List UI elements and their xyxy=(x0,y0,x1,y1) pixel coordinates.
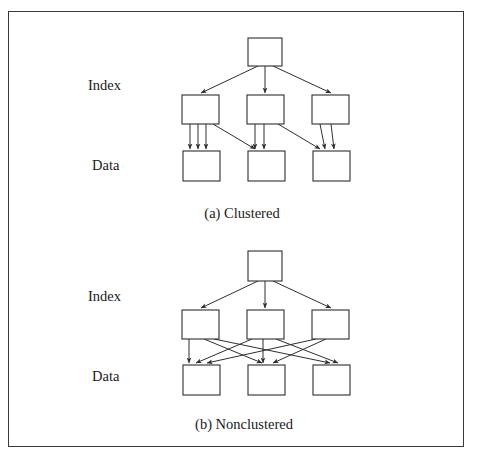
edge-index-to-data-6 xyxy=(276,339,338,363)
index-node-2 xyxy=(247,310,284,339)
edge-root-to-index-3 xyxy=(273,66,331,93)
edge-index-to-data-9 xyxy=(331,124,334,149)
panel-caption-clustered: (a) Clustered xyxy=(204,205,280,222)
data-node-3 xyxy=(313,151,350,181)
index-structure-diagram: IndexData(a) ClusteredIndexData(b) Noncl… xyxy=(0,0,477,458)
edge-root-to-index-3 xyxy=(273,281,331,308)
row-label-index: Index xyxy=(88,288,122,304)
root-index-node xyxy=(248,38,282,66)
data-node-3 xyxy=(313,365,350,395)
edge-index-to-data-3 xyxy=(214,339,330,363)
data-node-2 xyxy=(248,365,285,395)
index-node-1 xyxy=(182,95,219,124)
index-node-2 xyxy=(247,95,284,124)
edge-index-to-data-7 xyxy=(278,124,320,149)
data-node-1 xyxy=(183,365,220,395)
index-node-3 xyxy=(312,95,349,124)
data-node-1 xyxy=(183,151,220,181)
figure-root: IndexData(a) ClusteredIndexData(b) Noncl… xyxy=(0,0,477,458)
edge-index-to-data-8 xyxy=(320,124,325,149)
root-index-node xyxy=(248,251,282,281)
panel-caption-nonclustered: (b) Nonclustered xyxy=(195,416,294,433)
row-label-data: Data xyxy=(92,368,120,384)
row-label-data: Data xyxy=(92,157,120,173)
edge-root-to-index-1 xyxy=(201,66,258,93)
index-node-1 xyxy=(182,310,219,339)
edge-root-to-index-1 xyxy=(201,281,258,308)
data-node-2 xyxy=(248,151,285,181)
index-node-3 xyxy=(312,310,349,339)
edge-index-to-data-4 xyxy=(213,124,255,149)
panel-nonclustered: IndexData(b) Nonclustered xyxy=(88,251,350,433)
row-label-index: Index xyxy=(88,77,122,93)
panel-clustered: IndexData(a) Clustered xyxy=(88,38,350,222)
